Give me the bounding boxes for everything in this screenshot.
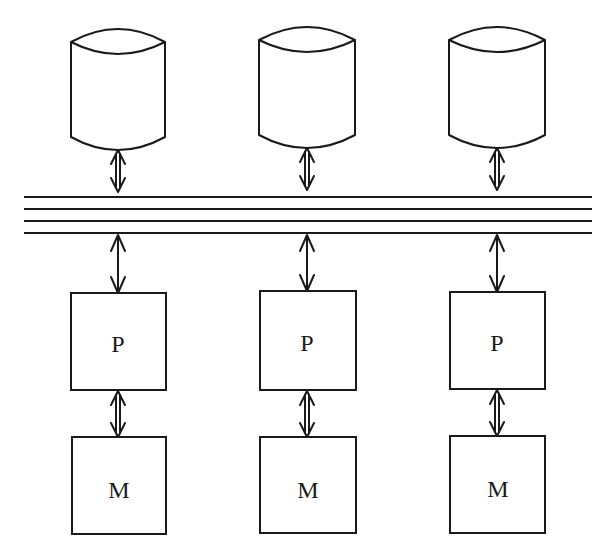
interconnect-bus xyxy=(24,197,592,233)
disk-bus-arrow-2 xyxy=(300,148,314,190)
proc-mem-arrow-1 xyxy=(111,391,125,437)
bus-proc-arrow-3 xyxy=(490,235,504,292)
proc-mem-arrow-3 xyxy=(490,390,504,436)
memory-label-1: M xyxy=(108,478,129,502)
processor-label-3: P xyxy=(490,331,503,355)
disk-1 xyxy=(71,29,165,150)
disk-2 xyxy=(259,27,355,148)
memory-label-3: M xyxy=(487,477,508,501)
double-arrow-icon xyxy=(111,150,125,192)
double-arrow-icon xyxy=(300,148,314,190)
processor-label-1: P xyxy=(111,332,124,356)
processor-label-2: P xyxy=(300,331,313,355)
memory-label-2: M xyxy=(297,478,318,502)
disk-icon xyxy=(449,27,545,148)
proc-mem-arrow-2 xyxy=(300,391,314,437)
disk-3 xyxy=(449,27,545,148)
bus-proc-arrow-1 xyxy=(111,235,125,293)
shared-disk-diagram xyxy=(0,0,615,559)
double-arrow-icon xyxy=(490,148,504,190)
disk-bus-arrow-1 xyxy=(111,150,125,192)
bus-proc-arrow-2 xyxy=(300,235,314,291)
disk-icon xyxy=(259,27,355,148)
disk-bus-arrow-3 xyxy=(490,148,504,190)
disk-icon xyxy=(71,29,165,150)
